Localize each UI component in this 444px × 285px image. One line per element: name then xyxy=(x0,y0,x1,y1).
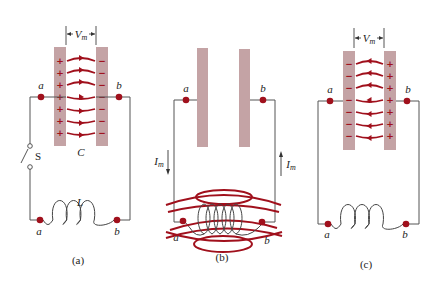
node-b-top-a xyxy=(116,94,123,101)
node-label-b-top-c: b xyxy=(405,83,411,95)
inductor-label: L xyxy=(76,196,83,208)
capacitor-label: C xyxy=(77,146,85,158)
node-label-a-bottom: a xyxy=(36,225,42,237)
field-arrowhead xyxy=(79,67,84,73)
plate-sign-right: − xyxy=(98,56,106,66)
node-label-a-bottom-b: a xyxy=(173,231,179,243)
wire-right-a xyxy=(117,97,130,220)
panel-b: a b Im Im a b (b) xyxy=(153,48,296,264)
voltage-bracket-c: Vm xyxy=(354,28,384,48)
plate-sign-left: − xyxy=(345,95,353,105)
wire-right-c xyxy=(406,101,419,224)
field-arrowhead xyxy=(367,58,372,64)
node-label-a-top-c: a xyxy=(327,83,333,95)
voltage-bracket-a: Vm xyxy=(66,26,96,45)
current-label-right: Im xyxy=(285,158,296,172)
node-a-bottom-a xyxy=(37,217,44,224)
switch-terminal-top xyxy=(28,144,33,149)
node-a-top-c xyxy=(327,98,334,105)
caption-a: (a) xyxy=(72,254,85,267)
plate-sign-left: + xyxy=(56,128,64,138)
node-a-top-b xyxy=(183,97,190,104)
capacitor-plate-left-b xyxy=(197,48,208,147)
inductor-coil-c xyxy=(331,205,403,230)
caption-b: (b) xyxy=(216,251,229,264)
current-label-left: Im xyxy=(153,155,164,169)
plate-sign-left: − xyxy=(345,107,353,117)
plate-sign-left: + xyxy=(56,56,64,66)
node-label-b-bottom-b: b xyxy=(264,234,270,246)
node-a-bottom-c xyxy=(325,221,332,228)
wire-left-top-a xyxy=(30,97,41,145)
node-label-b-b: b xyxy=(260,82,266,94)
wire-left-bottom-a xyxy=(30,169,40,220)
plate-sign-right: − xyxy=(98,116,106,126)
plate-sign-right: + xyxy=(386,95,394,105)
field-arrowhead xyxy=(367,70,372,76)
plate-sign-left: + xyxy=(56,80,64,90)
plate-sign-right: + xyxy=(386,83,394,93)
electric-field-lines-a xyxy=(67,55,95,138)
current-arrow-down xyxy=(166,150,170,175)
field-arrowhead xyxy=(79,79,84,85)
switch-blade[interactable] xyxy=(21,149,28,163)
plate-sign-left: − xyxy=(345,119,353,129)
field-arrowhead xyxy=(79,120,84,126)
node-b-top-c xyxy=(404,98,411,105)
plate-sign-left: − xyxy=(345,59,353,69)
field-arrowhead xyxy=(367,111,372,117)
node-b-bottom-c xyxy=(403,221,410,228)
field-arrowhead xyxy=(79,132,84,138)
capacitor-plate-right-b xyxy=(239,49,250,147)
caption-c: (c) xyxy=(360,258,373,271)
switch-terminal-bottom xyxy=(28,165,33,170)
field-arrowhead xyxy=(367,123,372,129)
plate-sign-left: − xyxy=(345,131,353,141)
node-a-top-a xyxy=(38,94,45,101)
field-arrowhead xyxy=(367,135,372,141)
node-label-b-bottom: b xyxy=(114,225,120,237)
wire-left-c xyxy=(318,101,330,224)
node-label-b-top: b xyxy=(116,79,122,91)
node-label-a-b: a xyxy=(183,82,189,94)
panel-a: Vm +−+−+−+−+−+−+− C S a b L a b (a) xyxy=(21,26,130,267)
plate-sign-left: − xyxy=(345,71,353,81)
field-arrowhead xyxy=(367,82,372,88)
voltage-label-a: Vm xyxy=(75,28,88,42)
node-b-top-b xyxy=(260,97,267,104)
plate-sign-right: − xyxy=(98,128,106,138)
plate-sign-right: + xyxy=(386,71,394,81)
plate-sign-left: − xyxy=(345,83,353,93)
plate-sign-left: + xyxy=(56,68,64,78)
field-arrowhead xyxy=(79,55,84,61)
current-arrow-up xyxy=(279,151,283,176)
plate-sign-right: + xyxy=(386,131,394,141)
switch-label: S xyxy=(35,150,41,162)
field-arrowhead xyxy=(79,108,84,114)
electric-field-lines-c xyxy=(356,58,383,141)
node-b-bottom-b xyxy=(259,219,266,226)
plate-sign-right: + xyxy=(386,59,394,69)
node-label-a-top: a xyxy=(38,79,44,91)
plate-sign-right: + xyxy=(386,119,394,129)
lc-circuit-diagram: Vm +−+−+−+−+−+−+− C S a b L a b (a) xyxy=(0,0,444,285)
plate-sign-right: − xyxy=(98,104,106,114)
panel-c: Vm −+−+−+−+−+−+−+ a b a b (c) xyxy=(318,28,419,271)
plate-sign-left: + xyxy=(56,116,64,126)
plate-sign-left: + xyxy=(56,104,64,114)
node-label-a-bottom-c: a xyxy=(324,228,330,240)
plate-sign-right: + xyxy=(386,107,394,117)
voltage-label-c: Vm xyxy=(363,32,376,46)
node-a-bottom-b xyxy=(180,218,187,225)
node-b-bottom-a xyxy=(114,217,121,224)
node-label-b-bottom-c: b xyxy=(402,228,408,240)
plate-sign-right: − xyxy=(98,80,106,90)
plate-sign-right: − xyxy=(98,68,106,78)
